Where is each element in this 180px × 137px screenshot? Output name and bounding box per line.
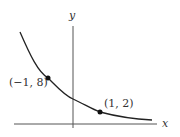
point-1-2 <box>98 110 103 115</box>
x-axis-label: x <box>162 117 169 130</box>
point-label-neg1-8: (−1, 8) <box>9 76 48 89</box>
point-label-1-2: (1, 2) <box>104 97 134 110</box>
graph: x y (−1, 8) (1, 2) <box>0 0 180 137</box>
y-axis-label: y <box>68 9 76 22</box>
